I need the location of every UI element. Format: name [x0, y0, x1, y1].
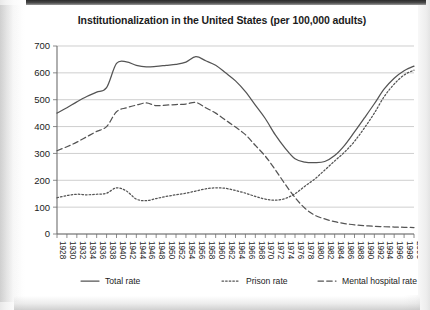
page-left-shadow — [0, 5, 22, 302]
scanned-page: Institutionalization in the United State… — [0, 0, 430, 310]
x-tick-label: 1938 — [108, 241, 117, 260]
x-tick-label: 1978 — [306, 241, 315, 260]
x-tick-label: 1980 — [316, 241, 325, 260]
legend-label: Prison rate — [246, 276, 288, 286]
series-line-prison-rate — [57, 70, 414, 201]
data-series-layer — [57, 57, 414, 228]
x-tick-label: 1932 — [78, 241, 87, 260]
x-tick-label: 1966 — [247, 241, 256, 260]
line-chart: 0100200300400500600700 19281930193219341… — [26, 33, 418, 295]
y-tick-label: 100 — [34, 202, 50, 213]
x-tick-label: 1988 — [356, 241, 365, 260]
x-tick-label: 1952 — [177, 241, 186, 260]
y-tick-label: 600 — [34, 67, 50, 78]
legend-label: Total rate — [105, 276, 141, 286]
x-tick-label: 1944 — [138, 241, 147, 260]
x-tick-label: 1984 — [336, 241, 345, 260]
x-tick-label: 1930 — [68, 241, 77, 260]
y-tick-label: 700 — [34, 40, 50, 51]
y-tick-label: 400 — [34, 121, 50, 132]
x-tick-label: 1962 — [227, 241, 236, 260]
x-tick-label: 2000 — [415, 241, 418, 260]
page-bottom-shadow — [14, 296, 420, 310]
x-tick-label: 1946 — [147, 241, 156, 260]
x-tick-label: 1934 — [88, 241, 97, 260]
x-tick-label: 1928 — [58, 241, 67, 260]
x-tick-label: 1958 — [207, 241, 216, 260]
x-tick-label: 1940 — [118, 241, 127, 260]
x-axis-tick-marks — [57, 234, 414, 238]
x-tick-label: 1990 — [366, 241, 375, 260]
x-tick-label: 1972 — [276, 241, 285, 260]
x-tick-label: 1954 — [187, 241, 196, 260]
x-tick-label: 1970 — [266, 241, 275, 260]
x-tick-label: 1994 — [385, 241, 394, 260]
x-axis-tick-labels: 1928193019321934193619381940194219441946… — [58, 241, 418, 260]
chart-title: Institutionalization in the United State… — [26, 14, 418, 26]
x-tick-label: 1956 — [197, 241, 206, 260]
x-tick-label: 1976 — [296, 241, 305, 260]
series-line-mental-hospital-rate — [57, 102, 414, 227]
x-tick-label: 1992 — [376, 241, 385, 260]
chart-plot-area: 0100200300400500600700 19281930193219341… — [26, 33, 418, 295]
x-tick-label: 1982 — [326, 241, 335, 260]
x-tick-label: 1964 — [237, 241, 246, 260]
x-tick-label: 1998 — [405, 241, 414, 260]
y-axis-tick-labels: 0100200300400500600700 — [34, 40, 50, 239]
x-tick-label: 1968 — [257, 241, 266, 260]
x-tick-label: 1936 — [98, 241, 107, 260]
x-tick-label: 1996 — [395, 241, 404, 260]
chart-legend: Total ratePrison rateMental hospital rat… — [81, 276, 417, 286]
gridlines — [53, 46, 414, 234]
x-tick-label: 1986 — [346, 241, 355, 260]
x-tick-label: 1974 — [286, 241, 295, 260]
x-tick-label: 1950 — [167, 241, 176, 260]
x-tick-label: 1942 — [128, 241, 137, 260]
y-tick-label: 0 — [45, 228, 50, 239]
y-tick-label: 500 — [34, 94, 50, 105]
chart-sheet: Institutionalization in the United State… — [26, 5, 418, 295]
legend-label: Mental hospital rate — [342, 276, 417, 286]
x-tick-label: 1948 — [157, 241, 166, 260]
y-tick-label: 200 — [34, 175, 50, 186]
x-tick-label: 1960 — [217, 241, 226, 260]
y-tick-label: 300 — [34, 148, 50, 159]
